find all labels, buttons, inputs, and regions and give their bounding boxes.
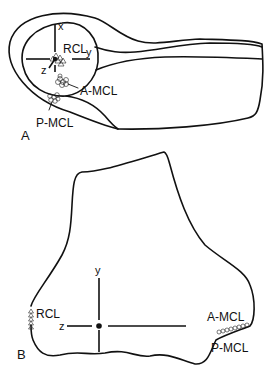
panel-b-label: B [17,347,26,362]
panel-a-upper-band-line [95,43,262,52]
panel-b-origin-dot [96,323,102,329]
panel-b-rcl-label: RCL [36,307,60,321]
panel-a: x y z RCL A-MCL P-MCL A [9,13,263,143]
panel-a-p-mcl-label: P-MCL [36,116,74,130]
diagram-canvas: x y z RCL A-MCL P-MCL A y z RCL A-MCL [0,0,277,381]
panel-b: y z RCL A-MCL P-MCL B [17,152,254,364]
panel-a-label: A [21,128,30,143]
panel-a-outer-outline [9,13,263,129]
panel-a-lower-band-line [96,57,262,70]
panel-a-a-mcl-label: A-MCL [80,84,118,98]
panel-b-y-label: y [95,264,101,276]
panel-a-x-label: x [58,20,64,32]
panel-a-rcl-label: RCL [63,42,87,56]
panel-a-inner-tail-line [66,96,118,129]
panel-a-z-label: z [41,64,47,76]
panel-b-z-label: z [59,320,65,332]
panel-a-a-mcl-markers [56,74,69,88]
panel-a-a-mcl-leader [68,84,78,88]
panel-b-bone-outline [31,152,254,364]
panel-b-p-mcl-label: P-MCL [211,341,249,355]
panel-b-a-mcl-label: A-MCL [207,310,245,324]
